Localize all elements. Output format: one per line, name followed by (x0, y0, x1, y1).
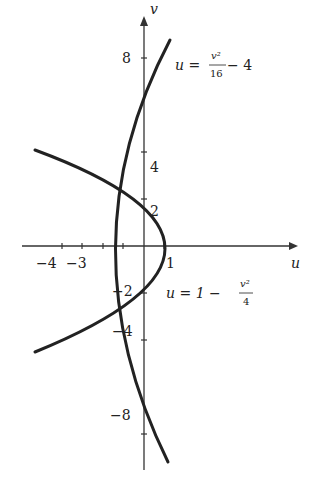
x-tick-label: −4 (36, 255, 57, 271)
curve-1-equation: u = v² 16 − 4 (175, 50, 252, 79)
parabola-diagram: v u −4 −3 1 8 4 2 −2 −4 −8 u = v² 16 − 4… (0, 0, 320, 480)
parabola-curve-2 (35, 150, 165, 352)
svg-text:u =: u = (175, 57, 200, 73)
curve-2-equation: u = 1 − v² 4 (166, 278, 253, 307)
y-tick-label: 4 (150, 159, 159, 175)
svg-text:− 4: − 4 (227, 57, 252, 73)
y-tick-label: −4 (112, 323, 133, 339)
y-tick-label: −2 (112, 283, 133, 299)
svg-text:v²: v² (211, 50, 221, 61)
svg-text:v²: v² (240, 278, 250, 289)
svg-text:u = 1 −: u = 1 − (166, 285, 221, 301)
parabola-curve-1 (115, 40, 170, 462)
x-tick-label: 1 (166, 255, 175, 271)
svg-text:4: 4 (243, 296, 249, 307)
svg-text:16: 16 (210, 68, 223, 79)
u-axis (22, 242, 298, 250)
v-axis-label: v (150, 1, 158, 17)
u-axis-label: u (291, 255, 300, 271)
y-tick-label: 2 (150, 203, 159, 219)
x-tick-label: −3 (66, 255, 87, 271)
y-tick-label: −8 (110, 407, 131, 423)
y-tick-label: 8 (122, 50, 131, 66)
